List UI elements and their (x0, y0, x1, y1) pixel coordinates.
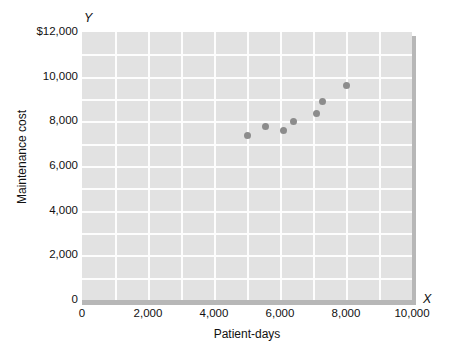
gridline-horizontal (82, 121, 412, 123)
y-tick-label: 8,000 (49, 115, 78, 126)
x-tick-label: 8,000 (332, 307, 361, 319)
gridline-horizontal (82, 211, 412, 213)
gridline-horizontal (82, 99, 412, 101)
x-tick-label: 0 (79, 307, 85, 319)
x-tick-label: 10,000 (394, 307, 429, 319)
y-tick-label: 10,000 (43, 71, 78, 82)
x-axis-title: Patient-days (82, 327, 412, 341)
gridline-horizontal (82, 144, 412, 146)
data-point (244, 132, 251, 139)
x-tick-label: 2,000 (134, 307, 163, 319)
x-tick-label: 6,000 (266, 307, 295, 319)
y-tick-label: 0 (72, 294, 78, 305)
x-axis-bar (82, 300, 416, 305)
y-tick-label: 4,000 (49, 205, 78, 216)
y-axis-letter: Y (84, 11, 92, 25)
x-axis-letter: X (423, 292, 431, 306)
gridline-horizontal (82, 77, 412, 79)
data-point (290, 118, 297, 125)
gridline-horizontal (82, 233, 412, 235)
gridline-horizontal (82, 188, 412, 190)
plot-area (82, 32, 412, 300)
x-tick-label: 4,000 (200, 307, 229, 319)
data-point (343, 82, 350, 89)
gridline-horizontal (82, 278, 412, 280)
y-axis-tick-labels: 02,0004,0006,0008,00010,000$12,000 (0, 0, 78, 355)
y-tick-label: 2,000 (49, 249, 78, 260)
data-point (280, 127, 287, 134)
gridline-horizontal (82, 166, 412, 168)
gridline-horizontal (82, 54, 412, 56)
data-point (313, 110, 320, 117)
y-axis-title: Maintenance cost (15, 87, 29, 227)
gridline-horizontal (82, 255, 412, 257)
y-tick-label: $12,000 (36, 26, 78, 37)
y-tick-label: 6,000 (49, 160, 78, 171)
data-point (319, 98, 326, 105)
data-point (262, 123, 269, 130)
scatter-plot-figure: 02,0004,0006,0008,00010,000$12,000 02,00… (0, 0, 452, 355)
